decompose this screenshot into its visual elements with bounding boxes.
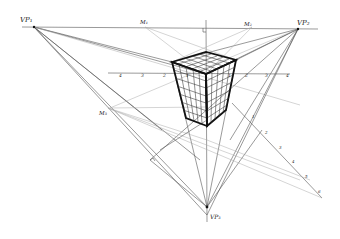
right-angle-mark xyxy=(203,28,206,32)
svg-text:2: 2 xyxy=(264,130,268,135)
vp1-label: VP₁ xyxy=(20,16,33,24)
svg-text:3: 3 xyxy=(141,73,144,78)
svg-text:4: 4 xyxy=(285,73,289,78)
svg-text:3: 3 xyxy=(265,73,268,78)
vp1-construction-lines xyxy=(34,27,300,207)
vp2-point xyxy=(297,28,299,30)
m2-label: M₂ xyxy=(243,21,252,27)
svg-text:4: 4 xyxy=(118,73,122,78)
diagonal-tick-labels: 1 2 3 4 5 6 xyxy=(252,114,321,194)
vp2-vp3-line xyxy=(207,29,298,215)
vp2-label: VP₂ xyxy=(297,19,310,27)
svg-text:2: 2 xyxy=(244,73,248,78)
svg-text:4: 4 xyxy=(291,159,295,164)
vp3-point xyxy=(206,206,209,209)
gridded-box xyxy=(172,52,236,126)
svg-text:2: 2 xyxy=(162,73,166,78)
horizon-line xyxy=(22,27,318,29)
vp3-label: VP₃ xyxy=(210,213,221,220)
svg-text:5: 5 xyxy=(305,174,308,179)
svg-text:1: 1 xyxy=(252,114,255,119)
m3-label: M₃ xyxy=(98,110,107,116)
svg-text:6: 6 xyxy=(318,189,321,194)
svg-text:3: 3 xyxy=(279,145,282,150)
vp1-point xyxy=(33,26,35,28)
diagonal-measuring-line xyxy=(232,103,322,198)
m1-label: M₁ xyxy=(139,19,148,25)
svg-text:1: 1 xyxy=(186,73,189,78)
perspective-diagram: VP₁ VP₂ VP₃ M₁ M₂ M₃ 4 3 2 1 1 2 3 4 1 2… xyxy=(0,0,340,239)
vp1-vp3-line xyxy=(34,27,207,215)
svg-text:1: 1 xyxy=(228,73,231,78)
